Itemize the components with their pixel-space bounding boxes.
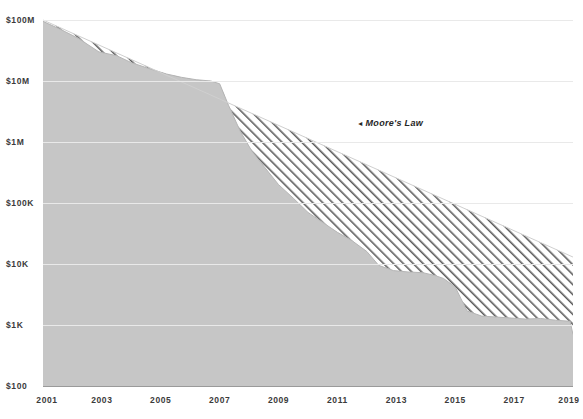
left-arrow-icon: ◂ [358,119,362,128]
y-axis-tick-label: $100 [6,381,27,391]
x-axis-tick-label: 2013 [386,395,407,405]
y-axis-tick-label: $100M [6,15,35,25]
y-axis-tick-label: $10K [6,259,29,269]
chart-container: $100M$10M$1M$100K$10K$1K$100 20012003200… [0,0,583,419]
x-axis-tick-label: 2017 [503,395,524,405]
y-axis-tick-label: $1K [6,320,23,330]
y-axis-tick-label: $100K [6,198,34,208]
x-axis-tick-label: 2007 [209,395,230,405]
moores-law-annotation-label: Moore's Law [366,118,423,128]
x-axis-tick-label: 2001 [36,395,57,405]
x-axis-tick-label: 2011 [327,395,348,405]
y-axis-tick-label: $1M [6,137,24,147]
x-axis-tick-label: 2015 [445,395,466,405]
x-axis-tick-label: 2019 [558,395,579,405]
x-axis-tick-label: 2003 [91,395,112,405]
y-axis-tick-label: $10M [6,76,30,86]
x-axis-tick-label: 2009 [268,395,289,405]
chart-plot-svg [0,0,583,419]
x-axis-tick-label: 2005 [150,395,171,405]
moores-law-annotation: ◂Moore's Law [358,118,423,128]
